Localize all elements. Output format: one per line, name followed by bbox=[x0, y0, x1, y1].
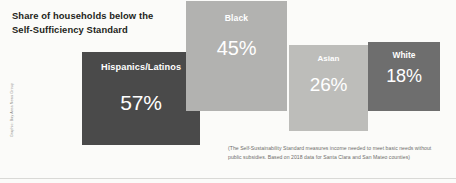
bar-value-asian: 26% bbox=[289, 74, 368, 96]
bar-white: White 18% bbox=[368, 42, 440, 111]
bar-value-black: 45% bbox=[186, 37, 287, 60]
bar-label-black: Black bbox=[186, 13, 287, 23]
bar-label-asian: Asian bbox=[289, 54, 368, 63]
bottom-divider bbox=[0, 178, 456, 179]
bar-black: Black 45% bbox=[186, 1, 287, 111]
bar-hispanics-latinos: Hispanics/Latinos 57% bbox=[82, 52, 200, 145]
bar-value-hispanics-latinos: 57% bbox=[82, 91, 200, 115]
infographic-container: Share of households below the Self-Suffi… bbox=[0, 0, 456, 183]
bar-asian: Asian 26% bbox=[289, 45, 368, 131]
page-title: Share of households below the Self-Suffi… bbox=[12, 9, 212, 38]
bar-label-hispanics-latinos: Hispanics/Latinos bbox=[82, 62, 200, 72]
graphic-credit: Graphic: Bay Area News Group bbox=[10, 80, 14, 140]
footnote-text: (The Self-Sustainability Standard measur… bbox=[228, 144, 440, 162]
bar-label-white: White bbox=[368, 50, 440, 60]
bar-value-white: 18% bbox=[368, 66, 440, 87]
